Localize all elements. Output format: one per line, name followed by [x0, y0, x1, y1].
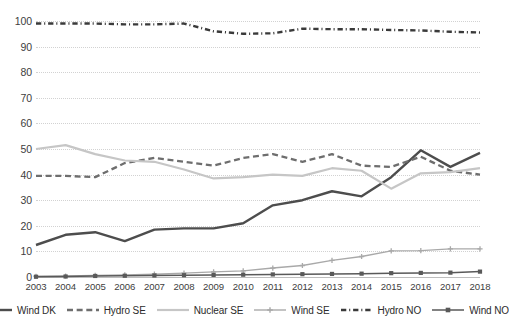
series-marker [212, 273, 216, 277]
series-marker [123, 274, 127, 278]
x-tick-label: 2014 [351, 281, 372, 292]
y-tick-label: 20 [21, 220, 32, 232]
series-line-wind-se [36, 249, 480, 276]
series-line-nuclear-se [36, 145, 480, 189]
x-tick-label: 2016 [410, 281, 431, 292]
series-marker [93, 274, 97, 278]
y-tick-label: 60 [21, 117, 32, 129]
x-tick-label: 2018 [470, 281, 491, 292]
y-tick-label: 30 [21, 194, 32, 206]
series-marker [418, 248, 423, 253]
series-marker [389, 271, 393, 275]
y-axis-labels: 0102030405060708090100 [0, 0, 32, 296]
gridline-0 [36, 277, 480, 278]
series-marker [360, 272, 364, 276]
legend-label: Wind DK [17, 305, 56, 316]
legend-label: Wind NO [469, 305, 509, 316]
legend-label: Nuclear SE [194, 305, 244, 316]
legend-swatch-wind-no-icon [432, 305, 464, 315]
series-marker [448, 271, 452, 275]
legend-swatch-hydro-no-icon [341, 305, 373, 315]
legend-item-hydro-no[interactable]: Hydro NO [341, 305, 422, 316]
series-marker [389, 248, 394, 253]
legend-item-wind-dk[interactable]: Wind DK [0, 305, 56, 316]
x-tick-label: 2011 [263, 281, 283, 292]
y-tick-label: 70 [21, 92, 32, 104]
x-tick-label: 2009 [203, 281, 224, 292]
legend-item-nuclear-se[interactable]: Nuclear SE [157, 305, 244, 316]
y-tick-label: 50 [21, 143, 32, 155]
y-tick-label: 80 [21, 66, 32, 78]
legend-item-wind-se[interactable]: Wind SE [254, 305, 329, 316]
series-marker [34, 275, 38, 279]
series-marker [64, 274, 68, 278]
x-tick-label: 2015 [381, 281, 402, 292]
y-tick-label: 10 [21, 245, 32, 257]
series-marker [152, 273, 156, 277]
x-tick-label: 2007 [144, 281, 165, 292]
x-tick-label: 2005 [85, 281, 106, 292]
series-line-wind-no [36, 272, 480, 277]
series-marker [477, 246, 482, 251]
series-marker [448, 246, 453, 251]
y-tick-label: 40 [21, 169, 32, 181]
series-marker [330, 272, 334, 276]
series-marker [270, 265, 275, 270]
x-tick-label: 2006 [114, 281, 135, 292]
legend-swatch-wind-dk-icon [0, 305, 12, 315]
chart-legend: Wind DKHydro SENuclear SEWind SEHydro NO… [0, 300, 489, 320]
series-marker [359, 254, 364, 259]
series-lines [36, 21, 480, 277]
legend-swatch-wind-se-icon [254, 305, 286, 315]
x-tick-label: 2004 [55, 281, 76, 292]
legend-label: Hydro SE [104, 305, 146, 316]
series-line-hydro-no [36, 24, 480, 34]
legend-item-wind-no[interactable]: Wind NO [432, 305, 509, 316]
y-tick-label: 90 [21, 41, 32, 53]
series-marker [241, 273, 245, 277]
series-line-wind-dk [36, 150, 480, 245]
legend-swatch-nuclear-se-icon [157, 305, 189, 315]
x-tick-label: 2008 [174, 281, 195, 292]
series-marker [329, 258, 334, 263]
legend-swatch-hydro-se-icon [67, 305, 99, 315]
x-axis-labels: 2003200420052006200720082009201020112012… [36, 281, 480, 297]
x-tick-label: 2012 [292, 281, 313, 292]
plot-area [36, 21, 480, 277]
legend-label: Wind SE [291, 305, 329, 316]
legend-label: Hydro NO [378, 305, 422, 316]
legend-item-hydro-se[interactable]: Hydro SE [67, 305, 146, 316]
series-marker [419, 271, 423, 275]
x-tick-label: 2010 [233, 281, 254, 292]
x-tick-label: 2003 [26, 281, 47, 292]
x-tick-label: 2013 [322, 281, 343, 292]
series-marker [182, 273, 186, 277]
series-marker [300, 272, 304, 276]
series-marker [300, 263, 305, 268]
series-marker [478, 270, 482, 274]
x-tick-label: 2017 [440, 281, 461, 292]
series-marker [271, 272, 275, 276]
y-tick-label: 100 [15, 15, 32, 27]
